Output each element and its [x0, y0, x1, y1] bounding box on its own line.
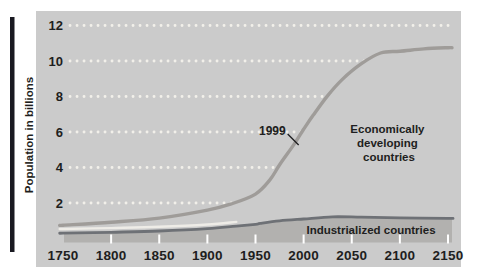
x-tick-mark-1950 [255, 235, 257, 244]
developing-label-line1: Economically [350, 123, 425, 135]
x-tick-label-2100: 2100 [384, 248, 415, 263]
x-tick-label-2050: 2050 [336, 248, 367, 263]
x-tick-label-1750: 1750 [48, 248, 79, 263]
x-tick-label-2150: 2150 [433, 248, 464, 263]
y-tick-label-2: 2 [56, 196, 63, 211]
x-tick-mark-2150 [447, 235, 449, 244]
developing-label-line3: countries [363, 151, 415, 163]
population-chart: 2468101217501800185019001950200020502100… [0, 0, 482, 275]
x-tick-mark-2050 [351, 235, 353, 244]
x-tick-mark-1850 [158, 235, 160, 244]
x-tick-mark-1900 [206, 235, 208, 244]
x-tick-mark-2100 [399, 235, 401, 244]
x-tick-label-1850: 1850 [144, 248, 175, 263]
x-tick-mark-1800 [110, 235, 112, 244]
y-tick-label-8: 8 [56, 89, 63, 104]
y-tick-label-12: 12 [49, 18, 63, 33]
developing-label-line2: developing [357, 137, 418, 149]
x-tick-label-1900: 1900 [192, 248, 223, 263]
x-tick-label-2000: 2000 [288, 248, 319, 263]
y-tick-label-10: 10 [49, 54, 63, 69]
figure-page: 2468101217501800185019001950200020502100… [0, 0, 482, 275]
x-tick-mark-2000 [303, 235, 305, 244]
figure-edge-bar [10, 17, 15, 252]
y-tick-label-4: 4 [56, 160, 64, 175]
x-tick-label-1950: 1950 [240, 248, 271, 263]
y-axis-title: Population in billions [23, 77, 35, 193]
industrialized-countries-label: Industrialized countries [306, 224, 435, 236]
annotation-1999-label: 1999 [259, 124, 286, 138]
x-tick-label-1800: 1800 [96, 248, 127, 263]
y-tick-label-6: 6 [56, 125, 63, 140]
